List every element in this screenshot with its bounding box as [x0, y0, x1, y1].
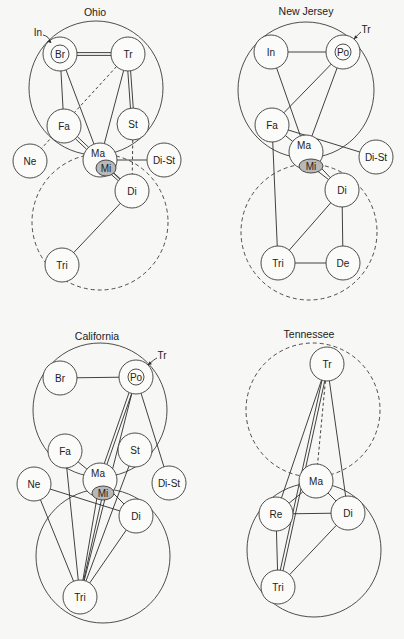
node-st: St — [118, 433, 152, 467]
node-label: Ne — [24, 156, 37, 167]
node-dist: Di-St — [359, 140, 393, 174]
node-tri: Tri — [45, 248, 79, 282]
edge-tr-st — [128, 71, 131, 108]
edge-fa-tri — [273, 142, 278, 246]
nodes: TrMaReDiTri — [259, 347, 365, 604]
node-label: Di — [343, 508, 352, 519]
node-label: De — [337, 258, 350, 269]
node-tri: Tri — [261, 246, 295, 280]
node-label: Ma — [91, 148, 105, 159]
edge-fa-ma — [78, 462, 87, 469]
node-tr: Tr — [111, 37, 145, 71]
node-ma: Ma — [299, 464, 333, 498]
edge-mi-di — [111, 174, 118, 180]
node-label-mi: Mi — [101, 163, 112, 174]
node-ne: Ne — [13, 144, 47, 178]
panel-title: California — [75, 330, 120, 342]
node-di: Di — [115, 174, 149, 208]
node-di: Di — [325, 173, 359, 207]
node-dist: Di-St — [147, 143, 181, 177]
panel-title: Ohio — [84, 6, 106, 18]
node-ma: MaMi — [83, 143, 117, 177]
edge-br-fa — [61, 71, 63, 109]
node-label: Ne — [28, 479, 41, 490]
node-label: Di-St — [365, 152, 387, 163]
node-fa: Fa — [255, 108, 289, 142]
node-ne: Ne — [17, 467, 51, 501]
edge-ma-di — [328, 493, 336, 501]
node-ma: MaMi — [289, 135, 323, 173]
node-label: Tri — [272, 582, 283, 593]
node-label: St — [128, 119, 138, 130]
node-po: Po — [326, 35, 360, 69]
node-di: Di — [331, 496, 365, 530]
annotation-tr: Tr — [148, 350, 167, 366]
node-label: Tri — [272, 258, 283, 269]
panel-california: CaliforniaBrPoFaStNeMaMiDi-StDiTriTr — [17, 330, 186, 623]
node-label: Fa — [266, 120, 278, 131]
edge-fa-tri — [67, 468, 79, 580]
node-label: Fa — [59, 446, 71, 457]
figure-svg: OhioBrTrFaStNeMaMiDi-StDiTriIn New Jerse… — [0, 0, 404, 639]
panel-tennessee: TennesseeTrMaReDiTri — [246, 328, 381, 617]
node-di: Di — [119, 499, 153, 533]
node-fa: Fa — [48, 434, 82, 468]
node-label: In — [267, 47, 275, 58]
panel-new-jersey: New JerseyInPoFaMaMiDi-StDiTriDeTr — [238, 5, 393, 300]
node-po: Po — [119, 360, 153, 394]
edge-fa-ma — [285, 136, 292, 142]
node-ma: MaMi — [83, 463, 117, 500]
node-label: Br — [55, 373, 66, 384]
node-label: Di-St — [158, 478, 180, 489]
panel-title: New Jersey — [279, 5, 335, 17]
node-fa: Fa — [47, 109, 81, 143]
node-label: Di — [337, 185, 346, 196]
node-tri: Tri — [261, 570, 295, 604]
node-in: In — [254, 35, 288, 69]
node-label: Tr — [123, 49, 133, 60]
node-br: Br — [43, 361, 77, 395]
sociogram-figure: OhioBrTrFaStNeMaMiDi-StDiTriIn New Jerse… — [0, 0, 404, 639]
annotation-tr: Tr — [354, 24, 371, 40]
edge-di-tri — [290, 525, 337, 574]
node-label: Ma — [91, 468, 105, 479]
node-label: Fa — [58, 121, 70, 132]
node-label: Di — [131, 511, 140, 522]
node-label-mi: Mi — [306, 161, 317, 172]
node-st: St — [117, 108, 149, 140]
edge-po-fa — [284, 64, 331, 113]
node-label: Di-St — [153, 155, 175, 166]
edge-di-de — [342, 207, 343, 246]
edge-di-tri — [289, 203, 331, 250]
node-label: Po — [130, 372, 143, 383]
edge-re-tri — [276, 531, 277, 570]
annotation-label: Tr — [157, 350, 167, 361]
node-label: Tri — [74, 592, 85, 603]
panel-ohio: OhioBrTrFaStNeMaMiDi-StDiTriIn — [13, 6, 181, 290]
edge-re-di — [293, 513, 331, 514]
annotation-label: In — [34, 27, 42, 38]
node-dist: Di-St — [152, 466, 186, 500]
node-tr: Tr — [310, 347, 344, 381]
panel-title: Tennessee — [284, 328, 335, 340]
edge-mi-tri — [84, 500, 102, 581]
edge-br-po — [77, 377, 119, 378]
node-re: Re — [259, 497, 293, 531]
edge-di-tri — [74, 203, 121, 252]
edge-po-ma — [312, 68, 337, 136]
nodes: BrPoFaStNeMaMiDi-StDiTri — [17, 360, 186, 614]
node-label: Ma — [297, 140, 311, 151]
edge-tr-st — [131, 71, 134, 108]
node-label: St — [130, 445, 140, 456]
edge-ma-re — [289, 492, 303, 503]
node-tri: Tri — [63, 580, 97, 614]
node-label: Tr — [322, 359, 332, 370]
annotation-label: Tr — [361, 24, 371, 35]
node-label-mi: Mi — [98, 488, 109, 499]
node-label: Di — [127, 186, 136, 197]
edge-st-di — [132, 140, 133, 174]
node-label: Tri — [56, 260, 67, 271]
node-label: Re — [270, 509, 283, 520]
nodes: BrTrFaStNeMaMiDi-StDiTri — [13, 37, 181, 282]
edge-ne-tri — [40, 500, 73, 582]
